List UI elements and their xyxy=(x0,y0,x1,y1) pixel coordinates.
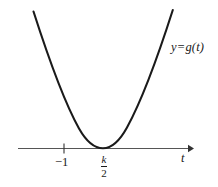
vertex-fraction-numerator: k xyxy=(101,154,108,165)
axis-arrowhead-icon xyxy=(188,145,194,152)
graph-figure: y=g(t) t −1 k 2 xyxy=(0,0,218,187)
vertex-fraction: k 2 xyxy=(101,154,108,179)
vertex-fraction-denominator: 2 xyxy=(101,168,108,179)
axis-label-t: t xyxy=(181,152,184,165)
tick-label-minus-one: −1 xyxy=(55,156,68,169)
vertex-label: k 2 xyxy=(94,154,114,179)
curve-label: y=g(t) xyxy=(171,41,204,54)
parabola-curve xyxy=(34,10,173,148)
